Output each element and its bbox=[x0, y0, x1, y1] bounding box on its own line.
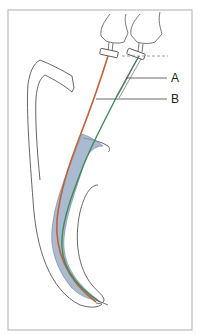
file-handle-b bbox=[131, 12, 162, 52]
tooth-file-diagram bbox=[0, 0, 197, 335]
file-handle-a bbox=[101, 14, 128, 52]
diagram-frame: A B bbox=[0, 0, 197, 335]
frame-border bbox=[8, 10, 192, 330]
label-a: A bbox=[171, 72, 179, 84]
root-canal-shading bbox=[52, 134, 103, 300]
file-a bbox=[57, 56, 108, 302]
label-b: B bbox=[171, 93, 179, 105]
rubber-stopper-a bbox=[100, 48, 119, 58]
